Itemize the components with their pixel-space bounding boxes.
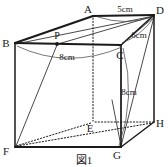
vertex-label-E: E xyxy=(87,122,94,134)
vertex-label-A: A xyxy=(84,3,92,15)
line-G-interior xyxy=(112,100,121,146)
edge-A-D xyxy=(93,15,154,16)
vertex-label-C: C xyxy=(116,49,123,61)
edge-B-C xyxy=(15,43,121,45)
vertex-label-B: B xyxy=(2,37,9,49)
figure-caption: 図1 xyxy=(76,154,93,166)
cuboid-figure-svg: A B C D E F G H P 5cm 6cm 8cm 8cm 図1 xyxy=(0,0,168,167)
dimension-label-CG: 8cm xyxy=(121,87,137,97)
vertex-label-F: F xyxy=(3,145,9,157)
vertex-label-D: D xyxy=(156,4,164,16)
figure-container: A B C D E F G H P 5cm 6cm 8cm 8cm 図1 xyxy=(0,0,168,167)
edge-F-E-hidden xyxy=(16,123,91,146)
line-P-F xyxy=(16,45,57,146)
dimension-label-BC: 8cm xyxy=(59,52,75,62)
dimension-label-AD: 5cm xyxy=(117,4,133,14)
point-marker-P xyxy=(55,42,59,46)
point-label-P: P xyxy=(54,30,60,41)
dimension-label-DC: 6cm xyxy=(131,30,147,40)
vertex-label-G: G xyxy=(113,149,121,161)
edge-F-H-hidden-diagonal xyxy=(17,123,152,146)
vertex-label-H: H xyxy=(156,117,164,129)
